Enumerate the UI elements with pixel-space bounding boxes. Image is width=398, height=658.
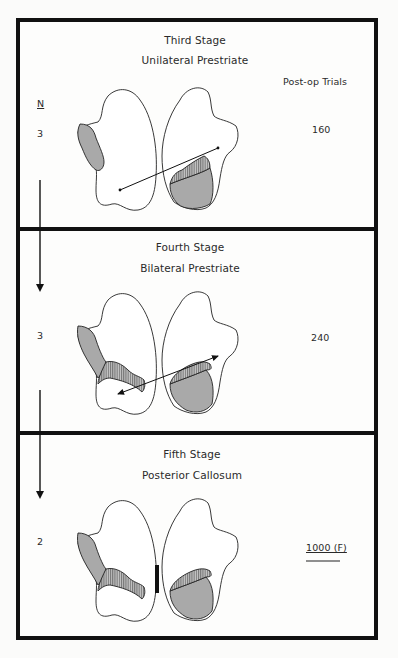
- brain-diagrams: [0, 0, 398, 658]
- callosum-section-marker: [155, 565, 159, 593]
- stage-4-brain: [77, 292, 238, 414]
- stage-3-brain: [78, 88, 238, 210]
- progression-arrow-2: [36, 390, 44, 499]
- stage-5-brain: [77, 499, 238, 621]
- progression-arrow-1: [36, 180, 44, 292]
